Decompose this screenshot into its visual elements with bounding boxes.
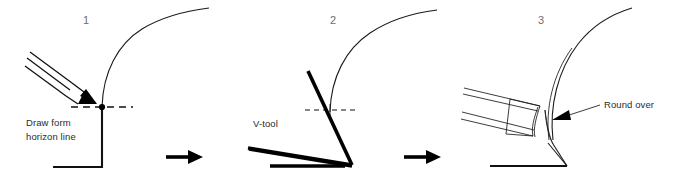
panel-1-intersection-dot xyxy=(99,104,105,110)
woodcarving-sequence-diagram: 1 xyxy=(0,0,684,184)
panel-1-caption-line-2: horizon line xyxy=(26,131,76,142)
panel-1-number: 1 xyxy=(83,14,89,26)
figure-root: 1 xyxy=(0,0,684,184)
panel-2-caption: V-tool xyxy=(253,118,278,129)
panel-2-number: 2 xyxy=(330,14,336,26)
panel-1-caption-line-1: Draw form xyxy=(26,117,71,128)
panel-3-caption: Round over xyxy=(604,99,654,110)
panel-3-number: 3 xyxy=(538,14,544,26)
